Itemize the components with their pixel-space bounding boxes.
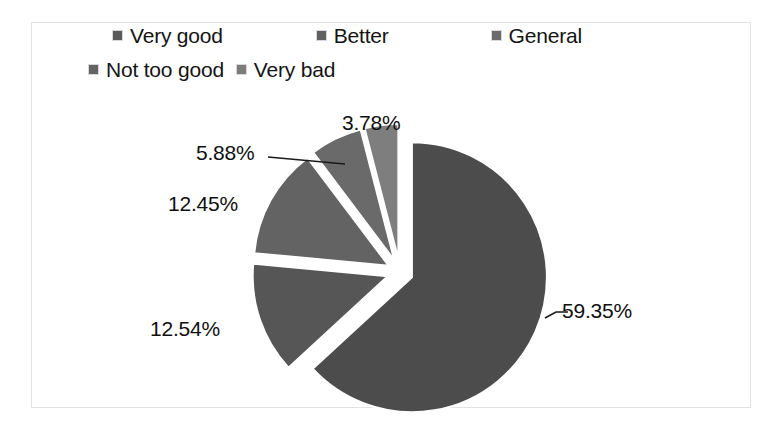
legend-item-general[interactable]: General [491,25,582,46]
legend-square-icon [112,30,123,41]
legend-item-better[interactable]: Better [316,25,389,46]
legend-row-2: Not too good Very bad [70,52,736,86]
pie-label-very-good: 59.35% [562,300,632,321]
legend-item-label: Very good [130,25,223,46]
pie-label-not-too-good: 5.88% [196,142,255,163]
pie-label-general: 12.45% [168,193,238,214]
legend-item-not-too-good[interactable]: Not too good [88,59,224,80]
legend-item-label: General [509,25,582,46]
legend-square-icon [236,64,247,75]
legend-item-label: Better [334,25,389,46]
pie-label-very-bad: 3.78% [342,112,401,133]
chart-legend: Very good Better General Not too good Ve… [0,18,776,86]
legend-item-very-good[interactable]: Very good [112,25,223,46]
legend-row-1: Very good Better General [70,18,736,52]
legend-item-label: Not too good [106,59,224,80]
legend-square-icon [491,30,502,41]
pie-label-better: 12.54% [150,318,220,339]
legend-item-label: Very bad [254,59,335,80]
legend-square-icon [88,64,99,75]
legend-item-very-bad[interactable]: Very bad [236,59,335,80]
legend-square-icon [316,30,327,41]
